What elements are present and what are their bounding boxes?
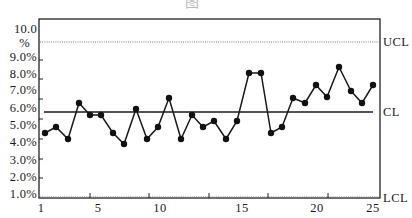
data-point-marker bbox=[211, 118, 217, 124]
data-point-marker bbox=[121, 141, 127, 147]
y-axis-label: 5.0% bbox=[0, 119, 37, 132]
axis-ticks bbox=[39, 60, 328, 198]
data-point-marker bbox=[178, 136, 184, 142]
data-point-marker bbox=[166, 95, 172, 101]
ucl-label: UCL bbox=[383, 36, 410, 49]
data-point-marker bbox=[98, 112, 104, 118]
data-point-marker bbox=[246, 70, 252, 76]
data-series bbox=[42, 64, 376, 147]
plot-frame bbox=[39, 19, 380, 198]
data-point-marker bbox=[76, 100, 82, 106]
data-point-marker bbox=[279, 124, 285, 130]
x-axis-label: 1 bbox=[38, 201, 45, 215]
control-limit-lines bbox=[40, 42, 379, 197]
data-point-marker bbox=[189, 112, 195, 118]
data-point-marker bbox=[370, 82, 376, 88]
data-point-marker bbox=[42, 130, 48, 136]
y-axis-label: 3.0% bbox=[0, 154, 37, 167]
data-point-marker bbox=[348, 88, 354, 94]
data-point-marker bbox=[302, 100, 308, 106]
data-point-marker bbox=[53, 124, 59, 130]
y-axis-label: 8.0% bbox=[0, 68, 37, 81]
y-axis-label: % bbox=[0, 37, 30, 50]
data-point-marker bbox=[87, 112, 93, 118]
y-axis-label: 2.0% bbox=[0, 171, 37, 184]
lcl-label: LCL bbox=[383, 192, 408, 205]
data-point-marker bbox=[268, 130, 274, 136]
y-axis-label: 1.0% bbox=[0, 188, 37, 201]
y-axis-label: 7.0% bbox=[0, 84, 37, 97]
x-axis-label: 10 bbox=[153, 201, 167, 215]
data-point-marker bbox=[359, 100, 365, 106]
y-axis-label: 6.0% bbox=[0, 102, 37, 115]
data-point-marker bbox=[144, 136, 150, 142]
data-point-marker bbox=[200, 124, 206, 130]
y-axis-label: 10.0 bbox=[0, 23, 37, 36]
cl-label: CL bbox=[383, 106, 400, 119]
data-point-marker bbox=[258, 70, 264, 76]
series-line bbox=[45, 67, 373, 144]
y-axis-label: 4.0% bbox=[0, 136, 37, 149]
data-point-marker bbox=[313, 82, 319, 88]
data-point-marker bbox=[336, 64, 342, 70]
data-point-marker bbox=[324, 94, 330, 100]
data-point-marker bbox=[223, 136, 229, 142]
plot-border bbox=[39, 19, 380, 198]
data-point-marker bbox=[155, 124, 161, 130]
x-axis-label: 15 bbox=[235, 201, 249, 215]
data-point-marker bbox=[133, 106, 139, 112]
x-axis-label: 5 bbox=[95, 201, 102, 215]
x-axis-label: 20 bbox=[310, 201, 324, 215]
data-point-marker bbox=[65, 136, 71, 142]
data-point-marker bbox=[234, 118, 240, 124]
data-point-marker bbox=[110, 130, 116, 136]
data-point-marker bbox=[290, 95, 296, 101]
y-axis-label: 9.0% bbox=[0, 51, 37, 64]
control-chart bbox=[0, 0, 412, 218]
x-axis-label: 25 bbox=[366, 201, 380, 215]
